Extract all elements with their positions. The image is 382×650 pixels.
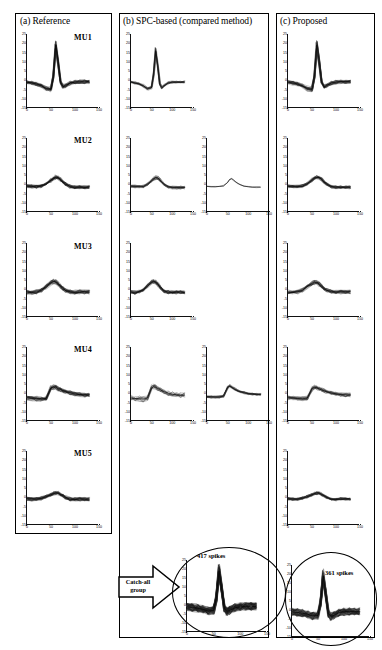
waveform-traces [27, 243, 99, 317]
plot-area: 2520151050-5-10-15050100150 [130, 138, 192, 212]
subplot-b-mu2-1: 2520151050-5-10-15050100150 [206, 138, 268, 212]
panel-b-title: (b) SPC-based (compared method) [123, 16, 252, 26]
subplot-a-mu2-0: 2520151050-5-10-15050100150 [26, 138, 98, 212]
x-tick-label: 50 [150, 317, 154, 321]
x-tick-label: 0 [26, 108, 28, 112]
x-tick-label: 0 [130, 421, 132, 425]
waveform-traces [131, 34, 193, 108]
x-tick-label: 0 [291, 637, 293, 641]
x-tick-label: 100 [333, 317, 339, 321]
x-tick-label: 0 [206, 212, 208, 216]
x-tick-label: 0 [206, 421, 208, 425]
x-tick-mark [370, 636, 371, 637]
x-tick-mark [99, 211, 100, 212]
x-tick-label: 150 [357, 108, 363, 112]
x-tick-label: 100 [72, 317, 78, 321]
x-tick-label: 50 [49, 108, 53, 112]
x-tick-label: 50 [49, 421, 53, 425]
x-tick-label: 100 [237, 632, 243, 636]
x-tick-label: 100 [341, 637, 347, 641]
subplot-c-mu1-0: 2520151050-5-10-15050100150 [287, 34, 359, 108]
x-tick-label: 0 [26, 212, 28, 216]
x-tick-mark [360, 316, 361, 317]
x-tick-label: 50 [316, 637, 320, 641]
x-tick-label: 150 [96, 525, 102, 529]
plot-area: 2520151050-5-10-15050100150 [26, 243, 98, 317]
x-tick-mark [193, 107, 194, 108]
x-tick-label: 150 [190, 108, 196, 112]
x-tick-label: 150 [96, 212, 102, 216]
waveform-traces [288, 34, 360, 108]
x-tick-label: 50 [150, 108, 154, 112]
subplot-a-mu5-0: 2520151050-5-10-15050100150 [26, 451, 98, 525]
subplot-b-mu3-0: 2520151050-5-10-15050100150 [130, 243, 192, 317]
x-tick-label: 0 [130, 317, 132, 321]
x-tick-label: 150 [357, 212, 363, 216]
x-tick-label: 150 [357, 421, 363, 425]
x-tick-label: 100 [169, 421, 175, 425]
plot-area: 2520151050-5-10-15050100150 [186, 560, 266, 632]
x-tick-label: 150 [264, 632, 270, 636]
x-tick-label: 150 [190, 421, 196, 425]
x-tick-label: 150 [357, 525, 363, 529]
x-tick-label: 100 [72, 421, 78, 425]
x-tick-label: 100 [333, 212, 339, 216]
x-tick-mark [99, 420, 100, 421]
x-tick-mark [360, 211, 361, 212]
x-tick-mark [360, 420, 361, 421]
x-tick-label: 50 [310, 421, 314, 425]
x-tick-label: 0 [130, 108, 132, 112]
waveform-traces [187, 560, 267, 632]
subplot-catchall-spc: 2520151050-5-10-15050100150 [186, 560, 266, 632]
x-tick-label: 100 [333, 525, 339, 529]
plot-area: 2520151050-5-10-15050100150 [287, 138, 359, 212]
x-tick-label: 100 [169, 317, 175, 321]
x-tick-mark [99, 107, 100, 108]
x-tick-mark [360, 107, 361, 108]
waveform-traces [27, 451, 99, 525]
panel-a-title: (a) Reference [20, 16, 70, 26]
x-tick-label: 0 [186, 632, 188, 636]
x-tick-mark [269, 420, 270, 421]
x-tick-label: 150 [96, 317, 102, 321]
x-tick-label: 50 [226, 421, 230, 425]
waveform-traces [131, 347, 193, 421]
waveform-traces [27, 347, 99, 421]
subplot-b-mu4-1: 2520151050-5-10-15050100150 [206, 347, 268, 421]
waveform-traces [288, 451, 360, 525]
subplot-b-mu4-0: 2520151050-5-10-15050100150 [130, 347, 192, 421]
x-tick-mark [99, 316, 100, 317]
catch-all-label-line1: Catch-all [121, 578, 155, 586]
x-tick-label: 50 [49, 317, 53, 321]
plot-area: 2520151050-5-10-15050100150 [26, 138, 98, 212]
x-tick-label: 0 [287, 108, 289, 112]
x-tick-label: 100 [169, 108, 175, 112]
x-tick-label: 0 [287, 525, 289, 529]
waveform-traces [292, 565, 370, 637]
x-tick-label: 100 [333, 108, 339, 112]
x-tick-label: 150 [367, 637, 373, 641]
x-tick-label: 150 [266, 421, 272, 425]
x-tick-label: 100 [72, 212, 78, 216]
x-tick-label: 0 [287, 421, 289, 425]
subplot-c-mu5-0: 2520151050-5-10-15050100150 [287, 451, 359, 525]
x-tick-label: 50 [150, 212, 154, 216]
plot-area: 2520151050-5-10-15050100150 [130, 243, 192, 317]
waveform-traces [207, 138, 269, 212]
x-tick-label: 150 [357, 317, 363, 321]
plot-area: 2520151050-5-10-15050100150 [206, 347, 268, 421]
x-tick-label: 150 [190, 212, 196, 216]
subplot-a-mu1-0: 2520151050-5-10-15050100150 [26, 34, 98, 108]
waveform-traces [207, 347, 269, 421]
plot-area: 2520151050-5-10-15050100150 [206, 138, 268, 212]
panel-c-title: (c) Proposed [280, 16, 327, 26]
x-tick-label: 50 [150, 421, 154, 425]
x-tick-mark [269, 211, 270, 212]
x-tick-label: 50 [49, 525, 53, 529]
plot-area: 2520151050-5-10-15050100150 [26, 451, 98, 525]
subplot-c-mu3-0: 2520151050-5-10-15050100150 [287, 243, 359, 317]
waveform-traces [288, 243, 360, 317]
x-tick-mark [267, 631, 268, 632]
subplot-a-mu3-0: 2520151050-5-10-15050100150 [26, 243, 98, 317]
x-tick-label: 50 [212, 632, 216, 636]
